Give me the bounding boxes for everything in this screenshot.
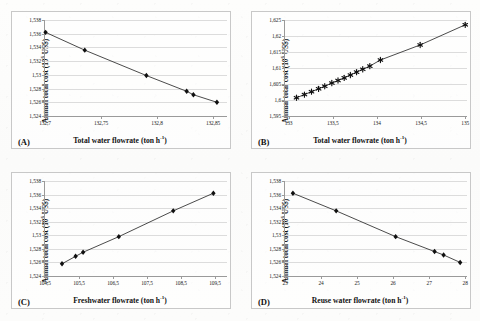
panel-b: Annual total cost (106 US$) 1,5951,61,60… bbox=[240, 0, 480, 161]
data-point-marker bbox=[215, 100, 219, 105]
panel-c-plot-area: 1,5241,5261,5281,531,5321,5341,5361,5381… bbox=[44, 181, 227, 277]
x-tick-mark bbox=[213, 116, 214, 119]
x-tick-label: 24 bbox=[318, 280, 323, 286]
data-series bbox=[45, 181, 227, 276]
x-tick-label: 107,5 bbox=[141, 280, 153, 286]
x-tick-mark bbox=[465, 116, 466, 119]
x-tick-label: 25 bbox=[354, 280, 359, 286]
x-tick-label: 108,5 bbox=[175, 280, 187, 286]
y-tick-label: 1,532 bbox=[29, 58, 41, 64]
x-tick-label: 28 bbox=[463, 280, 468, 286]
y-tick-label: 1,536 bbox=[29, 31, 41, 37]
data-point-marker bbox=[184, 89, 188, 94]
panel-a-plot-area: 1,5241,5261,5281,531,5321,5341,5361,5381… bbox=[44, 20, 227, 117]
x-tick-label: 26 bbox=[391, 280, 396, 286]
data-point-marker bbox=[60, 261, 64, 266]
data-series bbox=[285, 20, 467, 116]
y-tick-label: 1,532 bbox=[29, 219, 41, 225]
y-tick-label: 1,528 bbox=[29, 246, 41, 252]
x-tick-label: 133 bbox=[285, 120, 293, 126]
x-tick-mark bbox=[79, 276, 80, 279]
x-tick-label: 106,5 bbox=[107, 280, 119, 286]
y-tick-label: 1,526 bbox=[29, 259, 41, 265]
series-markers bbox=[60, 191, 216, 267]
data-series bbox=[45, 20, 227, 116]
x-tick-label: 135 bbox=[461, 120, 469, 126]
panel-d-x-axis-title: Reuse water flowrate (ton h-1) bbox=[240, 295, 480, 305]
x-tick-mark bbox=[357, 276, 358, 279]
panel-d-label: (D) bbox=[258, 297, 270, 307]
data-point-marker bbox=[432, 249, 436, 254]
x-tick-mark bbox=[321, 276, 322, 279]
x-tick-label: 134,5 bbox=[415, 120, 427, 126]
panel-b-plot-area: 1,5951,61,6051,611,6151,621,625133133,51… bbox=[284, 20, 467, 117]
x-tick-label: 132,75 bbox=[94, 120, 108, 126]
y-tick-label: 1,605 bbox=[269, 81, 281, 87]
y-tick-label: 1,62 bbox=[272, 33, 281, 39]
x-tick-mark bbox=[45, 116, 46, 119]
y-tick-label: 1,536 bbox=[29, 192, 41, 198]
data-point-marker bbox=[291, 191, 295, 196]
data-point-marker bbox=[171, 208, 175, 213]
y-tick-label: 1,524 bbox=[269, 273, 281, 279]
panel-c-label: (C) bbox=[18, 297, 30, 307]
x-tick-mark bbox=[393, 276, 394, 279]
x-tick-label: 23 bbox=[282, 280, 287, 286]
x-tick-label: 132,8 bbox=[151, 120, 163, 126]
y-tick-label: 1,53 bbox=[272, 232, 281, 238]
y-tick-label: 1,526 bbox=[29, 99, 41, 105]
panel-c-x-axis-title: Freshwater flowrate (ton h-1) bbox=[0, 295, 240, 305]
x-tick-mark bbox=[157, 116, 158, 119]
data-series bbox=[285, 181, 467, 276]
x-tick-mark bbox=[289, 116, 290, 119]
y-tick-label: 1,528 bbox=[29, 86, 41, 92]
y-tick-label: 1,526 bbox=[269, 259, 281, 265]
data-point-marker bbox=[83, 47, 87, 52]
y-tick-label: 1,595 bbox=[269, 113, 281, 119]
data-point-marker bbox=[81, 250, 85, 255]
series-line bbox=[62, 193, 213, 264]
y-tick-label: 1,534 bbox=[29, 205, 41, 211]
panel-a-label: (A) bbox=[18, 137, 30, 147]
series-line bbox=[46, 32, 217, 102]
x-tick-label: 105,5 bbox=[73, 280, 85, 286]
x-tick-label: 132,85 bbox=[206, 120, 220, 126]
x-tick-mark bbox=[113, 276, 114, 279]
x-tick-mark bbox=[465, 276, 466, 279]
y-tick-label: 1,534 bbox=[269, 205, 281, 211]
panel-a-x-axis-title: Total water flowrate (ton h-1) bbox=[0, 135, 240, 145]
y-tick-label: 1,625 bbox=[269, 17, 281, 23]
x-tick-label: 109,5 bbox=[209, 280, 221, 286]
x-tick-mark bbox=[147, 276, 148, 279]
y-tick-label: 1,524 bbox=[29, 273, 41, 279]
x-tick-label: 133,5 bbox=[327, 120, 339, 126]
series-markers bbox=[43, 30, 219, 105]
x-tick-label: 134 bbox=[373, 120, 381, 126]
y-tick-label: 1,532 bbox=[269, 219, 281, 225]
x-tick-label: 132,7 bbox=[39, 120, 51, 126]
data-point-marker bbox=[393, 234, 397, 239]
y-tick-label: 1,6 bbox=[275, 97, 281, 103]
x-tick-mark bbox=[45, 276, 46, 279]
data-point-marker bbox=[334, 208, 338, 213]
x-tick-mark bbox=[377, 116, 378, 119]
series-markers bbox=[294, 22, 467, 100]
data-point-marker bbox=[73, 254, 77, 259]
y-tick-label: 1,615 bbox=[269, 49, 281, 55]
y-tick-label: 1,538 bbox=[269, 178, 281, 184]
panel-d-plot-area: 1,5241,5261,5281,531,5321,5341,5361,5382… bbox=[284, 181, 467, 277]
panel-b-label: (B) bbox=[258, 137, 269, 147]
y-tick-label: 1,538 bbox=[29, 178, 41, 184]
data-point-marker bbox=[211, 191, 215, 196]
data-point-marker bbox=[441, 252, 445, 257]
x-tick-mark bbox=[101, 116, 102, 119]
panel-c: Annual total cost (106 US$) 1,5241,5261,… bbox=[0, 161, 240, 321]
y-tick-label: 1,524 bbox=[29, 113, 41, 119]
y-tick-label: 1,534 bbox=[29, 44, 41, 50]
panel-a: Annual total cost (106 US$) 1,5241,5261,… bbox=[0, 0, 240, 161]
x-tick-label: 27 bbox=[427, 280, 432, 286]
x-tick-mark bbox=[181, 276, 182, 279]
data-point-marker bbox=[458, 260, 462, 265]
data-point-marker bbox=[191, 92, 195, 97]
y-tick-label: 1,536 bbox=[269, 192, 281, 198]
